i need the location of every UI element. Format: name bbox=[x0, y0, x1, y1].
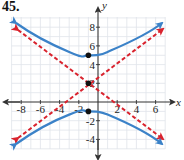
x-tick-label: -8 bbox=[17, 103, 27, 115]
center-point bbox=[86, 81, 92, 87]
y-tick-label: -2 bbox=[86, 115, 95, 127]
x-axis-label: x bbox=[175, 96, 181, 108]
y-tick-label: 8 bbox=[90, 21, 96, 33]
upper-vertex-point bbox=[86, 53, 92, 59]
y-tick-label: 6 bbox=[90, 40, 96, 52]
y-tick-label: 4 bbox=[90, 59, 96, 71]
y-tick-label: -4 bbox=[86, 133, 96, 145]
hyperbola-graph: -8 -6 -4 -2 2 4 6 -4 -2 2 4 6 8 x y bbox=[0, 0, 184, 160]
x-tick-label: 4 bbox=[134, 103, 140, 115]
x-tick-label: 6 bbox=[153, 103, 159, 115]
x-tick-label: -6 bbox=[36, 103, 46, 115]
y-axis-label: y bbox=[101, 0, 107, 11]
lower-vertex-point bbox=[86, 109, 92, 115]
